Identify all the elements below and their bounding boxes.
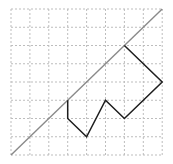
grid-diagram — [0, 0, 173, 164]
diagram-canvas — [0, 0, 173, 164]
path-polyline — [68, 46, 163, 137]
